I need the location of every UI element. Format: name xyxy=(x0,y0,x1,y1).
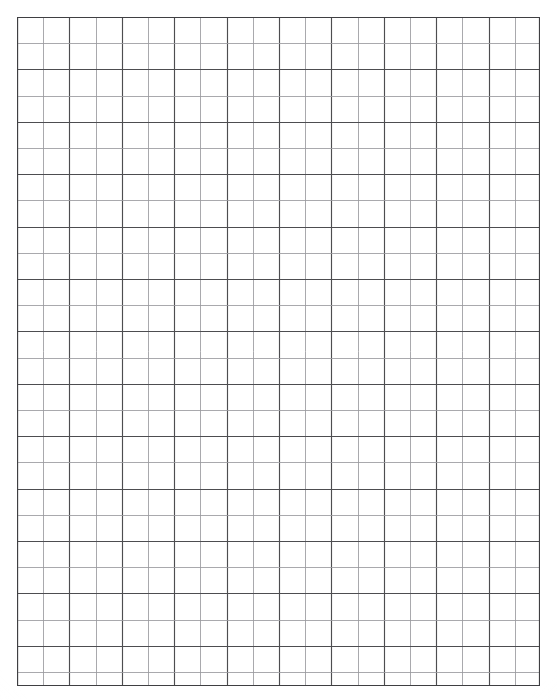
grid-canvas xyxy=(17,17,540,686)
graph-paper-page xyxy=(0,0,557,700)
grid-area xyxy=(17,17,540,686)
